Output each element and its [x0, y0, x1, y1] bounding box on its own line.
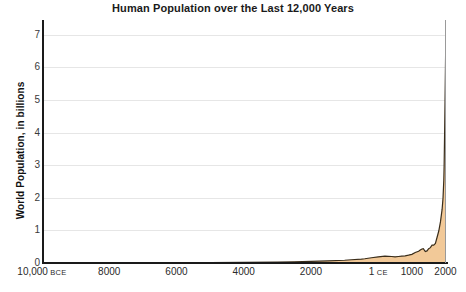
x-axis-tick: 4000 [233, 266, 255, 278]
area-series [42, 20, 446, 263]
y-axis-tick: 2 [4, 193, 40, 203]
x-axis-tick-labels: 10,000 BCE80006000400020001 CE10002000 [0, 266, 466, 282]
x-axis-spine [42, 262, 448, 264]
x-axis-tick: 2000 [300, 266, 322, 278]
x-axis-tick: 8000 [98, 266, 120, 278]
x-axis-tick: 1 CE [369, 266, 388, 279]
plot-area [42, 20, 446, 263]
y-axis-tick-labels: 76543210 [0, 0, 40, 292]
x-axis-tick: 6000 [165, 266, 187, 278]
right-axis-spine [445, 20, 446, 263]
population-area-fill [42, 22, 446, 263]
x-axis-tick: 1000 [401, 266, 423, 278]
y-axis-spine [42, 20, 44, 264]
y-axis-tick: 7 [4, 30, 40, 40]
y-axis-tick: 3 [4, 160, 40, 170]
y-axis-tick: 6 [4, 62, 40, 72]
chart-title: Human Population over the Last 12,000 Ye… [0, 2, 466, 14]
population-chart: Human Population over the Last 12,000 Ye… [0, 0, 466, 292]
population-line [42, 22, 446, 263]
y-axis-tick: 5 [4, 95, 40, 105]
x-axis-tick: 10,000 BCE [17, 266, 66, 279]
y-axis-tick: 4 [4, 128, 40, 138]
x-axis-tick: 2000 [434, 266, 456, 278]
y-axis-tick: 1 [4, 225, 40, 235]
